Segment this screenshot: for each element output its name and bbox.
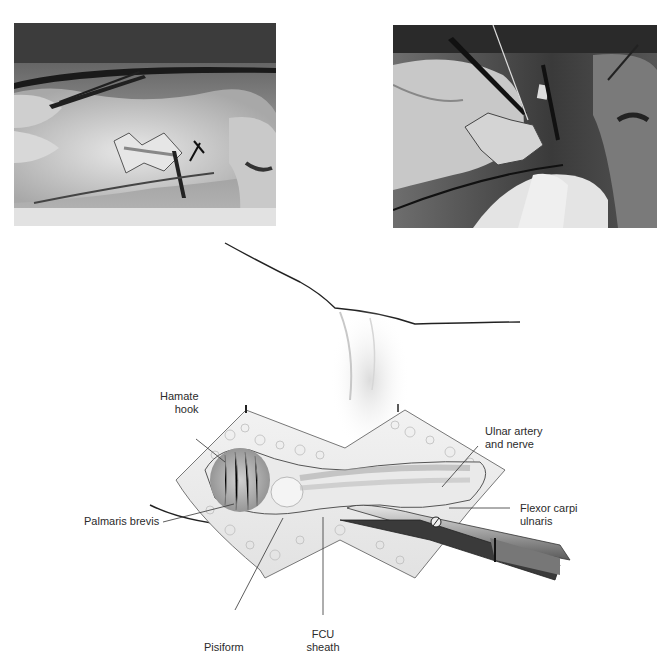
label-hamate-hook: Hamate hook xyxy=(160,390,199,416)
label-palmaris-brevis: Palmaris brevis xyxy=(84,515,159,528)
label-ulnar-line2: and nerve xyxy=(485,438,542,451)
photo-right-graphic xyxy=(393,25,657,228)
label-pisiform: Pisiform xyxy=(204,641,244,654)
label-hamate-hook-line1: Hamate xyxy=(160,390,199,403)
photo-left-graphic xyxy=(14,23,276,226)
label-hamate-hook-line2: hook xyxy=(160,403,199,416)
label-ulnar-line1: Ulnar artery xyxy=(485,425,542,438)
label-fcu-sheath-line2: sheath xyxy=(303,641,343,654)
intraoperative-photo-right xyxy=(393,25,657,228)
illustration-graphic xyxy=(0,230,670,667)
label-flexor-carpi-ulnaris: Flexor carpi ulnaris xyxy=(520,502,577,528)
label-ulnar-artery-nerve: Ulnar artery and nerve xyxy=(485,425,542,451)
surgical-illustration: Hamate hook Palmaris brevis Ulnar artery… xyxy=(0,230,670,667)
label-fcu-line2: ulnaris xyxy=(520,515,577,528)
pisiform-bone xyxy=(271,477,303,507)
label-fcu-line1: Flexor carpi xyxy=(520,502,577,515)
label-fcu-sheath: FCU sheath xyxy=(303,628,343,654)
label-fcu-sheath-line1: FCU xyxy=(303,628,343,641)
intraoperative-photo-left xyxy=(14,23,276,226)
